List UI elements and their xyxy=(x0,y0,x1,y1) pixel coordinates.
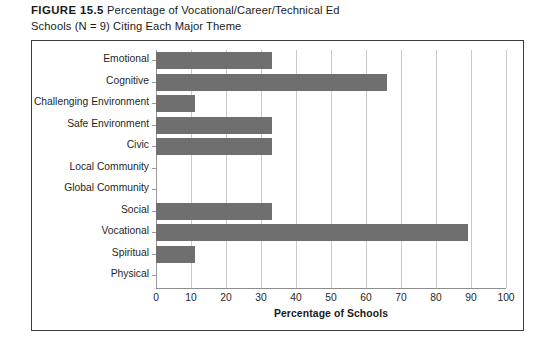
y-axis-category-label: Vocational xyxy=(101,225,149,236)
x-tick-label-100: 100 xyxy=(497,292,514,303)
x-tick-label-30: 30 xyxy=(255,292,266,303)
x-axis-title: Percentage of Schools xyxy=(156,308,506,319)
y-axis-category-label: Cognitive xyxy=(106,75,149,86)
figure-label: FIGURE 15.5 xyxy=(31,4,104,16)
x-tick-label-80: 80 xyxy=(430,292,441,303)
y-tick-mark xyxy=(152,168,156,169)
bar-row: Cognitive xyxy=(156,72,506,94)
x-tick-label-40: 40 xyxy=(290,292,301,303)
bar-row: Global Community xyxy=(156,179,506,201)
figure-caption: FIGURE 15.5 Percentage of Vocational/Car… xyxy=(31,2,361,34)
x-tick-label-50: 50 xyxy=(325,292,336,303)
bar-row: Spiritual xyxy=(156,244,506,266)
y-axis-category-label: Social xyxy=(121,204,149,215)
y-tick-mark xyxy=(152,275,156,276)
bar xyxy=(156,95,195,112)
x-tick-label-20: 20 xyxy=(220,292,231,303)
gridline-100 xyxy=(506,50,507,288)
y-tick-mark xyxy=(152,189,156,190)
bar xyxy=(156,224,468,241)
x-tick-label-90: 90 xyxy=(465,292,476,303)
y-axis-category-label: Global Community xyxy=(64,182,149,193)
bar-row: Social xyxy=(156,201,506,223)
bar-chart-plot-area: EmotionalCognitiveChallenging Environmen… xyxy=(156,50,506,288)
y-axis-category-label: Local Community xyxy=(69,161,149,172)
y-axis-category-label: Emotional xyxy=(103,53,149,64)
bar-row: Emotional xyxy=(156,50,506,72)
y-axis-category-label: Physical xyxy=(111,268,149,279)
bar xyxy=(156,52,272,69)
bar-row: Local Community xyxy=(156,158,506,180)
y-axis-category-label: Civic xyxy=(127,139,149,150)
x-tick-label-60: 60 xyxy=(360,292,371,303)
y-axis-category-label: Safe Environment xyxy=(67,118,149,129)
x-axis-line xyxy=(156,288,506,289)
bar xyxy=(156,138,272,155)
bar-row: Challenging Environment xyxy=(156,93,506,115)
bar xyxy=(156,74,387,91)
x-tick-label-10: 10 xyxy=(185,292,196,303)
bar xyxy=(156,246,195,263)
y-axis-category-label: Challenging Environment xyxy=(34,96,149,107)
bar xyxy=(156,117,272,134)
bar-row: Civic xyxy=(156,136,506,158)
bar-row: Vocational xyxy=(156,222,506,244)
bar xyxy=(156,203,272,220)
x-tick-label-0: 0 xyxy=(153,292,159,303)
bar-row: Safe Environment xyxy=(156,115,506,137)
y-axis-category-label: Spiritual xyxy=(112,247,149,258)
bar-row: Physical xyxy=(156,265,506,287)
x-tick-label-70: 70 xyxy=(395,292,406,303)
